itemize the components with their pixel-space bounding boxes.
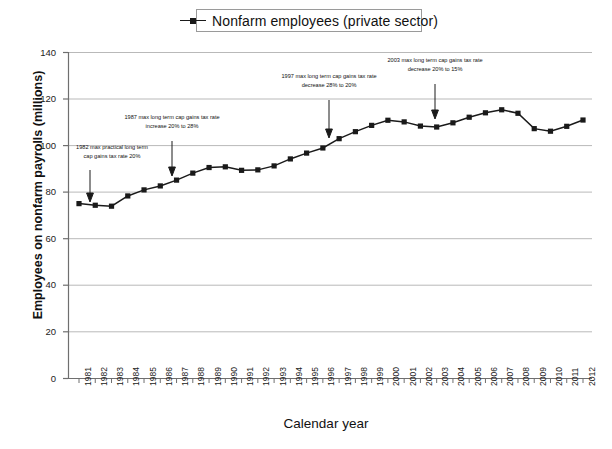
x-axis-title: Calendar year: [0, 416, 612, 431]
xtick-label-1998: 1998: [359, 367, 369, 386]
annotation-2003-line1: 2003 max long term cap gains tax rate: [373, 56, 497, 65]
xtick-label-1981: 1981: [83, 367, 93, 386]
xtick-label-1997: 1997: [343, 367, 353, 386]
xtick-label-1994: 1994: [294, 367, 304, 386]
xtick-label-1996: 1996: [326, 367, 336, 386]
xtick-label-2003: 2003: [440, 367, 450, 386]
ytick-label-140: 140: [16, 47, 56, 58]
data-point: [434, 124, 439, 129]
xtick-label-1990: 1990: [229, 367, 239, 386]
data-point: [515, 111, 520, 116]
annotation-1982-line1: 1982 max practical long term: [62, 143, 162, 152]
data-point: [369, 123, 374, 128]
xtick-label-1985: 1985: [148, 367, 158, 386]
annotation-2003-line2: decrease 20% to 15%: [373, 65, 497, 74]
data-point: [450, 120, 455, 125]
data-point: [418, 123, 423, 128]
data-point: [532, 126, 537, 131]
data-point: [125, 193, 130, 198]
y-axis-ticks: [63, 53, 68, 379]
data-point: [499, 107, 504, 112]
data-point: [402, 119, 407, 124]
xtick-label-1986: 1986: [164, 367, 174, 386]
xtick-label-2010: 2010: [554, 367, 564, 386]
xtick-label-2001: 2001: [408, 367, 418, 386]
ytick-label-80: 80: [16, 186, 56, 197]
xtick-label-2008: 2008: [521, 367, 531, 386]
xtick-label-1991: 1991: [245, 367, 255, 386]
data-point: [93, 203, 98, 208]
ytick-label-120: 120: [16, 93, 56, 104]
xtick-label-2007: 2007: [505, 367, 515, 386]
data-point: [320, 145, 325, 150]
data-point: [353, 129, 358, 134]
annotation-1987-line2: increase 20% to 28%: [110, 122, 234, 131]
annotation-1997: 1997 max long term cap gains tax rate de…: [267, 72, 391, 90]
ytick-label-60: 60: [16, 233, 56, 244]
annotation-1982-line2: cap gains tax rate 20%: [62, 152, 162, 161]
annotation-2003: 2003 max long term cap gains tax rate de…: [373, 56, 497, 74]
xtick-label-1989: 1989: [213, 367, 223, 386]
data-point: [288, 156, 293, 161]
data-point: [564, 124, 569, 129]
data-point: [141, 187, 146, 192]
x-axis-title-text: Calendar year: [244, 416, 369, 431]
annotation-1987-line1: 1987 max long term cap gains tax rate: [110, 113, 234, 122]
xtick-label-2002: 2002: [424, 367, 434, 386]
data-point: [158, 183, 163, 188]
xtick-label-2012: 2012: [587, 367, 597, 386]
xtick-label-2005: 2005: [473, 367, 483, 386]
xtick-label-1992: 1992: [261, 367, 271, 386]
xtick-label-2000: 2000: [391, 367, 401, 386]
data-point: [385, 118, 390, 123]
annotation-1982: 1982 max practical long term cap gains t…: [62, 143, 162, 161]
xtick-label-2006: 2006: [489, 367, 499, 386]
annotation-1997-line2: decrease 28% to 20%: [267, 81, 391, 90]
data-point: [239, 168, 244, 173]
xtick-label-2004: 2004: [456, 367, 466, 386]
xtick-label-1999: 1999: [375, 367, 385, 386]
data-point: [467, 115, 472, 120]
xtick-label-1988: 1988: [196, 367, 206, 386]
data-point: [272, 163, 277, 168]
xtick-label-2009: 2009: [538, 367, 548, 386]
data-point: [206, 165, 211, 170]
ytick-label-20: 20: [16, 326, 56, 337]
ytick-label-100: 100: [16, 140, 56, 151]
data-point: [255, 167, 260, 172]
data-point: [483, 110, 488, 115]
plot-frame: [68, 52, 592, 379]
data-point: [548, 129, 553, 134]
ytick-label-0: 0: [16, 373, 56, 384]
data-point: [190, 171, 195, 176]
xtick-label-1984: 1984: [131, 367, 141, 386]
xtick-label-1982: 1982: [99, 367, 109, 386]
data-point: [76, 201, 81, 206]
data-point: [223, 164, 228, 169]
data-point: [174, 178, 179, 183]
chart-container: Nonfarm employees (private sector) Emplo…: [0, 0, 612, 449]
data-point: [109, 204, 114, 209]
xtick-label-1995: 1995: [310, 367, 320, 386]
xtick-label-1993: 1993: [278, 367, 288, 386]
annotation-1987: 1987 max long term cap gains tax rate in…: [110, 113, 234, 131]
xtick-label-1983: 1983: [115, 367, 125, 386]
data-point: [304, 150, 309, 155]
data-point: [337, 136, 342, 141]
xtick-label-1987: 1987: [180, 367, 190, 386]
ytick-label-40: 40: [16, 279, 56, 290]
data-point: [580, 117, 585, 122]
xtick-label-2011: 2011: [570, 368, 580, 386]
